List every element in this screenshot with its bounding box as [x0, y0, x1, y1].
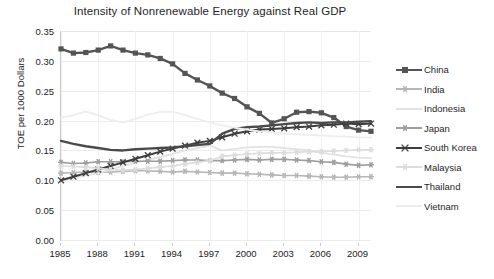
x-axis-tick-mark	[134, 243, 135, 246]
y-axis-tick: 0.00	[8, 235, 54, 246]
data-point-marker	[402, 125, 409, 131]
data-point-marker	[207, 170, 213, 175]
data-point-marker	[145, 52, 150, 57]
legend-item-india[interactable]: India	[396, 80, 494, 100]
data-point-marker	[343, 162, 349, 167]
data-point-marker	[257, 111, 262, 116]
data-point-marker	[83, 165, 89, 170]
data-point-marker	[170, 163, 176, 168]
data-point-marker	[71, 164, 77, 169]
chart-container: Intensity of Nonrenewable Energy against…	[0, 0, 494, 279]
data-point-marker	[319, 159, 325, 164]
legend-swatch	[396, 83, 422, 95]
legend-line-icon	[396, 108, 422, 110]
legend-item-south-korea[interactable]: South Korea	[396, 138, 494, 158]
data-point-marker	[96, 48, 101, 53]
data-point-marker	[182, 169, 188, 174]
data-point-marker	[182, 71, 187, 76]
data-point-marker	[282, 116, 287, 121]
x-axis-tick-mark	[283, 243, 284, 246]
data-point-marker	[306, 109, 311, 114]
legend-swatch	[396, 200, 422, 212]
legend-label: India	[422, 84, 445, 95]
data-point-marker	[170, 169, 176, 174]
x-axis-tick: 1994	[161, 248, 182, 259]
data-point-marker	[58, 160, 64, 165]
data-point-marker	[269, 150, 275, 155]
data-point-marker	[195, 77, 200, 82]
data-point-marker	[294, 173, 300, 178]
x-axis-tick: 2000	[235, 248, 256, 259]
data-point-marker	[244, 151, 250, 156]
data-point-marker	[219, 171, 225, 176]
data-point-marker	[356, 163, 362, 168]
legend-swatch	[396, 64, 422, 76]
data-point-marker	[133, 50, 138, 55]
data-point-marker	[71, 50, 76, 55]
plot-area	[60, 31, 371, 241]
legend-label: Japan	[422, 123, 450, 134]
legend-item-thailand[interactable]: Thailand	[396, 177, 494, 197]
x-axis-tick-mark	[172, 243, 173, 246]
data-point-marker	[356, 128, 361, 133]
data-point-marker	[58, 46, 63, 51]
y-axis-tick-labels: 0.000.050.100.150.200.250.300.35	[6, 31, 54, 240]
data-point-marker	[170, 158, 176, 163]
series-line	[61, 159, 371, 165]
data-point-marker	[402, 67, 408, 73]
data-point-marker	[306, 158, 312, 163]
data-point-marker	[402, 86, 409, 92]
series-lines-layer	[61, 31, 371, 240]
legend-swatch	[396, 103, 422, 115]
legend-item-vietnam[interactable]: Vietnam	[396, 197, 494, 217]
data-point-marker	[232, 96, 237, 101]
x-axis-tick: 1988	[87, 248, 108, 259]
data-point-marker	[319, 174, 325, 179]
legend-label: Vietnam	[422, 201, 459, 212]
data-point-marker	[157, 165, 163, 170]
data-point-marker	[294, 157, 300, 162]
data-point-marker	[220, 91, 225, 96]
legend-item-indonesia[interactable]: Indonesia	[396, 99, 494, 119]
data-point-marker	[331, 115, 336, 120]
data-point-marker	[219, 154, 225, 159]
x-axis-tick: 1991	[124, 248, 145, 259]
x-axis-tick: 2003	[273, 248, 294, 259]
data-point-marker	[83, 50, 88, 55]
data-point-marker	[219, 158, 225, 163]
series-china	[58, 43, 373, 134]
legend-label: China	[422, 64, 449, 75]
data-point-marker	[71, 161, 77, 166]
x-axis-tick-mark	[320, 243, 321, 246]
data-point-marker	[269, 157, 275, 162]
y-axis-tick: 0.05	[8, 205, 54, 216]
data-point-marker	[108, 43, 113, 48]
legend-item-china[interactable]: China	[396, 60, 494, 80]
data-point-marker	[368, 129, 373, 134]
series-line	[61, 171, 371, 178]
legend-swatch	[396, 181, 422, 193]
data-point-marker	[95, 159, 101, 164]
legend-label: Indonesia	[422, 103, 465, 114]
data-point-marker	[232, 153, 238, 158]
data-point-marker	[83, 160, 89, 165]
data-point-marker	[294, 150, 300, 155]
data-point-marker	[182, 162, 188, 167]
data-point-marker	[356, 174, 362, 179]
legend-line-icon	[396, 205, 422, 207]
legend-item-japan[interactable]: Japan	[396, 119, 494, 139]
data-point-marker	[257, 172, 263, 177]
legend-item-malaysia[interactable]: Malaysia	[396, 158, 494, 178]
x-axis-tick-mark	[358, 243, 359, 246]
data-point-marker	[182, 157, 188, 162]
data-point-marker	[170, 61, 175, 66]
data-point-marker	[402, 144, 409, 151]
x-axis-tick-labels: 198519881991199419972000200320062009	[60, 243, 370, 259]
data-point-marker	[281, 150, 287, 155]
data-point-marker	[269, 172, 275, 177]
legend-star-marker-icon	[400, 162, 410, 172]
data-point-marker	[157, 159, 163, 164]
data-point-marker	[331, 149, 337, 154]
legend-label: Thailand	[422, 181, 460, 192]
chart-legend: ChinaIndiaIndonesiaJapanSouth KoreaMalay…	[396, 60, 494, 216]
